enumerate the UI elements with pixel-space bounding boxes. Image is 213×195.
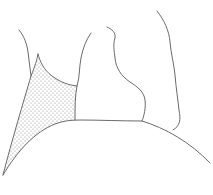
central-shape [75,33,91,120]
diagram-canvas: Line drawing with a stippled (dotted) re… [0,0,213,195]
bump-shape [107,27,145,121]
left-contour [19,30,31,76]
right-contour [157,11,180,130]
line-drawing [0,0,213,195]
stippled-region [3,58,77,175]
